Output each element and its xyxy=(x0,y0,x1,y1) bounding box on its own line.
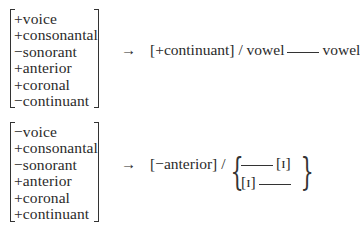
feature-voice: +voice xyxy=(14,11,98,27)
feature-matrix-rule-1: +voice +consonantal −sonorant +anterior … xyxy=(10,10,99,108)
segment-i: [ɪ] xyxy=(241,173,256,190)
focus-blank xyxy=(259,183,291,185)
arrow-icon: → xyxy=(121,156,136,172)
rule-2-slash: / xyxy=(221,155,225,172)
rule-1-env-right: vowel xyxy=(322,41,360,58)
bracket-bottom-right xyxy=(94,221,99,222)
feature-consonantal: +consonantal xyxy=(14,27,98,43)
feature-anterior: +anterior xyxy=(14,60,98,76)
rule-2-output: [−anterior] / xyxy=(150,155,225,173)
bracket-top-right xyxy=(94,9,99,10)
feature-continuant: +continuant xyxy=(14,206,98,222)
bracket-bottom-left xyxy=(10,221,15,222)
rule-1-env-left: vowel xyxy=(247,41,285,58)
right-brace-icon: } xyxy=(300,149,313,193)
feature-matrix-rule-2: −voice +consonantal −sonorant +anterior … xyxy=(10,123,99,222)
rule-2-change: [−anterior] xyxy=(150,155,217,172)
feature-coronal: +coronal xyxy=(14,190,98,206)
environment-option-2: [ɪ] xyxy=(241,173,294,191)
feature-voice: −voice xyxy=(14,124,98,140)
rule-1-change: [+continuant] xyxy=(150,41,235,58)
feature-coronal: +coronal xyxy=(14,77,98,93)
environment-option-1: [ɪ] xyxy=(241,154,291,172)
focus-blank xyxy=(241,164,273,166)
feature-anterior: +anterior xyxy=(14,173,98,189)
feature-sonorant: −sonorant xyxy=(14,157,98,173)
bracket-top-right xyxy=(94,122,99,123)
bracket-bottom-left xyxy=(10,107,15,108)
feature-consonantal: +consonantal xyxy=(14,140,98,156)
segment-i: [ɪ] xyxy=(276,154,291,171)
rule-1-slash: / xyxy=(238,41,242,58)
rule-1-output: [+continuant] / vowelvowel xyxy=(150,41,360,59)
bracket-bottom-right xyxy=(94,107,99,108)
focus-blank xyxy=(287,51,319,53)
feature-continuant: −continuant xyxy=(14,93,98,109)
bracket-top-left xyxy=(10,122,15,123)
feature-sonorant: −sonorant xyxy=(14,44,98,60)
arrow-icon: → xyxy=(121,42,136,58)
bracket-top-left xyxy=(10,9,15,10)
